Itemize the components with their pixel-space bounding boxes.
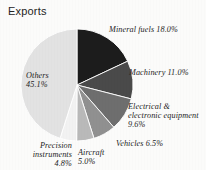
- slice-label-others: Others 45.1%: [26, 71, 49, 89]
- chart-figure: Exports Mineral fuels 18.0% Machinery 11…: [0, 0, 206, 170]
- slice-label-aircraft: Aircraft 5.0%: [78, 148, 104, 166]
- slice-label-mineral-fuels: Mineral fuels 18.0%: [109, 25, 178, 34]
- slice-label-precision-instruments: Precision instruments 4.8%: [8, 141, 72, 169]
- slice-label-electrical-electronic-equipment: Electrical & electronic equipment 9.6%: [128, 102, 199, 130]
- slice-label-machinery: Machinery 11.0%: [129, 68, 189, 77]
- slice-label-vehicles: Vehicles 6.5%: [116, 139, 163, 148]
